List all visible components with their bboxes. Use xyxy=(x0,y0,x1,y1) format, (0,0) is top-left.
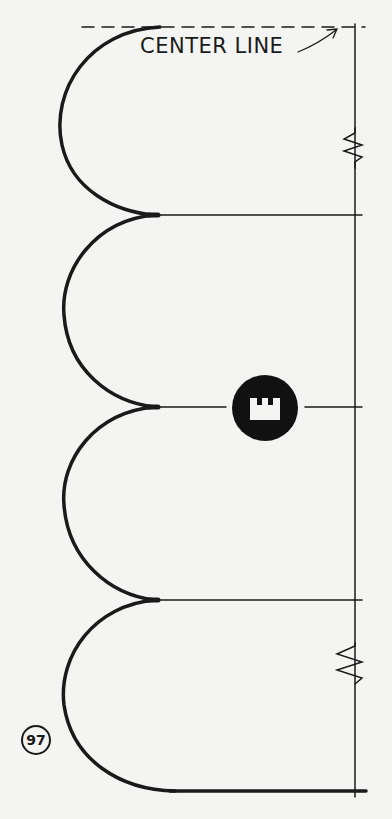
center-line-label: CENTER LINE xyxy=(140,34,283,58)
arc-2 xyxy=(64,215,155,407)
scalloped-diagram xyxy=(0,0,392,819)
arc-4 xyxy=(63,600,175,791)
center-line-arrow xyxy=(298,30,336,52)
castle-tower-icon xyxy=(232,375,298,441)
figure-number-badge: 97 xyxy=(21,725,51,755)
arc-3 xyxy=(64,407,155,600)
spring-bottom xyxy=(337,643,362,684)
spring-top xyxy=(344,128,362,168)
